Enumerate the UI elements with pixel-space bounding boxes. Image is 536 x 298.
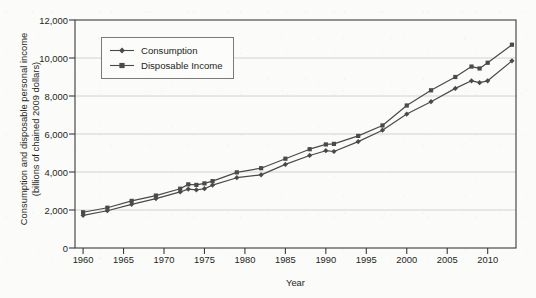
- legend-item-disposable-income: Disposable Income: [109, 58, 223, 73]
- x-axis-tick-label: 1970: [141, 254, 187, 265]
- y-axis-ticks: [69, 20, 75, 248]
- legend-marker-diamond-icon: [109, 45, 135, 56]
- chart-figure: Consumption and disposable personal inco…: [0, 0, 536, 298]
- x-axis-title: Year: [75, 277, 516, 288]
- gridlines: [75, 58, 516, 210]
- x-axis-tick-label: 2005: [424, 254, 470, 265]
- legend-label-disposable-income: Disposable Income: [141, 60, 223, 71]
- legend-item-consumption: Consumption: [109, 43, 223, 58]
- chart-legend: Consumption Disposable Income: [101, 37, 234, 79]
- legend-label-consumption: Consumption: [141, 45, 198, 56]
- x-axis-tick-label: 2010: [465, 254, 511, 265]
- x-axis-tick-label: 1975: [181, 254, 227, 265]
- x-axis-tick-label: 1965: [101, 254, 147, 265]
- legend-marker-square-icon: [109, 60, 135, 71]
- x-axis-tick-label: 1995: [343, 254, 389, 265]
- x-axis-tick-label: 1980: [222, 254, 268, 265]
- x-axis-tick-label: 1990: [303, 254, 349, 265]
- x-axis-tick-label: 1985: [262, 254, 308, 265]
- x-axis-tick-label: 2000: [384, 254, 430, 265]
- x-axis-tick-label: 1960: [60, 254, 106, 265]
